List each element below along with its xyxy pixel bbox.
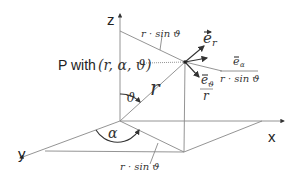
e-alpha-label: e α r · sin ϑ [220,55,259,84]
svg-text:ϑ: ϑ [208,80,214,89]
e-theta-label: e ϑ r [200,73,214,103]
svg-text:α: α [240,61,245,69]
theta-label: ϑ [126,90,135,105]
svg-text:r: r [212,37,218,48]
y-axis-label: y [18,145,26,162]
x-axis-label: x [268,128,276,145]
point-label: P with [58,57,96,73]
e-theta-vector [185,62,199,77]
alpha-arc [96,130,139,142]
e-r-label: e r [203,29,218,48]
floor-x-parallel [184,121,262,152]
p-vertical-line [184,62,185,152]
label-leader-line [146,62,185,63]
point-p [183,60,187,64]
z-axis-label: z [107,11,115,28]
point-coords: (r, α, ϑ) [98,57,151,73]
spherical-coordinates-diagram: z x y P with (r, α, ϑ) r ϑ α r · sin ϑ r… [0,0,293,176]
svg-text:r: r [203,89,210,103]
radius-label: r [150,76,161,100]
top-projection-label: r · sin ϑ [141,28,180,39]
svg-text:r · sin ϑ: r · sin ϑ [220,73,259,84]
floor-projection-line [120,121,184,152]
floor-projection-label: r · sin ϑ [120,161,159,172]
floor-y-parallel [45,151,184,152]
e-alpha-leader [185,62,222,71]
alpha-label: α [108,125,118,141]
